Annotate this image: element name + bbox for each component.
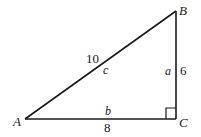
hypotenuse-name: c — [103, 63, 109, 77]
vertical-side-name: a — [165, 64, 171, 78]
vertical-side-length: 6 — [180, 63, 187, 78]
right-angle-marker — [166, 108, 176, 119]
vertex-label-a: A — [12, 114, 21, 129]
base-name: b — [105, 104, 111, 118]
vertex-label-c: C — [179, 115, 188, 130]
hypotenuse-length: 10 — [86, 51, 99, 66]
right-triangle-diagram: A B C 10 c a 6 b 8 — [0, 0, 201, 137]
side-c-hypotenuse — [25, 11, 176, 119]
base-length: 8 — [104, 120, 111, 135]
vertex-label-b: B — [179, 3, 187, 18]
